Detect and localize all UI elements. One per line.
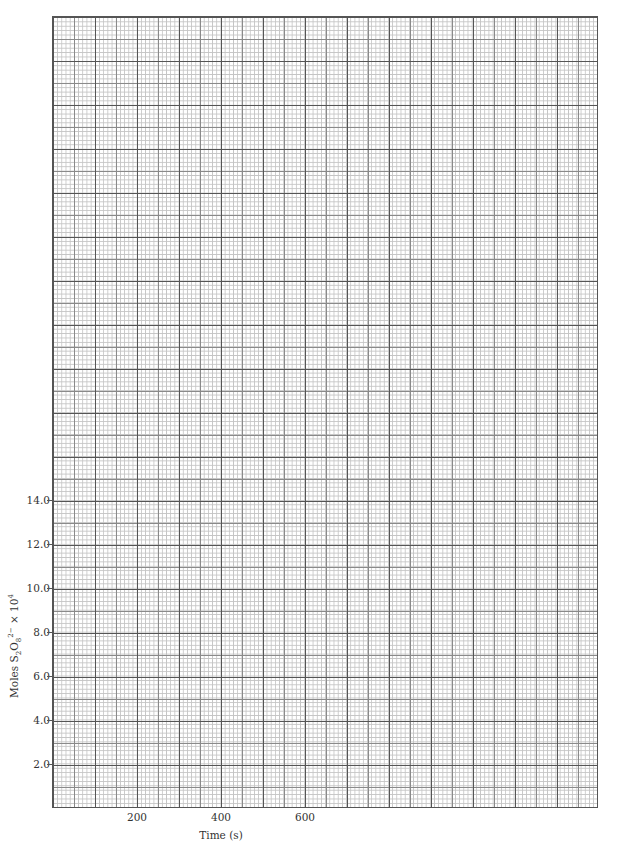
- y-axis-title-times: × 10: [8, 599, 20, 628]
- y-axis-title-charge: 2−: [7, 627, 15, 637]
- x-tick-label: 400: [211, 811, 231, 823]
- x-tick-label: 600: [295, 811, 315, 823]
- y-tick-mark: [47, 588, 52, 589]
- y-tick-mark: [47, 764, 52, 765]
- x-axis-title: Time (s): [199, 829, 242, 841]
- y-tick-mark: [47, 676, 52, 677]
- y-axis-title-prefix: Moles S: [8, 655, 20, 698]
- y-axis-title-exponent: 4: [7, 594, 15, 598]
- y-axis-title-mid: O: [8, 642, 20, 651]
- y-tick-mark: [47, 544, 52, 545]
- graph-paper-grid: [52, 16, 598, 808]
- y-tick-mark: [47, 500, 52, 501]
- y-tick-mark: [47, 632, 52, 633]
- y-tick-mark: [47, 720, 52, 721]
- y-axis-title-sub: 2: [15, 651, 23, 655]
- y-axis-title: Moles S2O82− × 104: [7, 594, 23, 698]
- y-axis-title-sub: 8: [15, 638, 23, 642]
- x-tick-label: 200: [127, 811, 147, 823]
